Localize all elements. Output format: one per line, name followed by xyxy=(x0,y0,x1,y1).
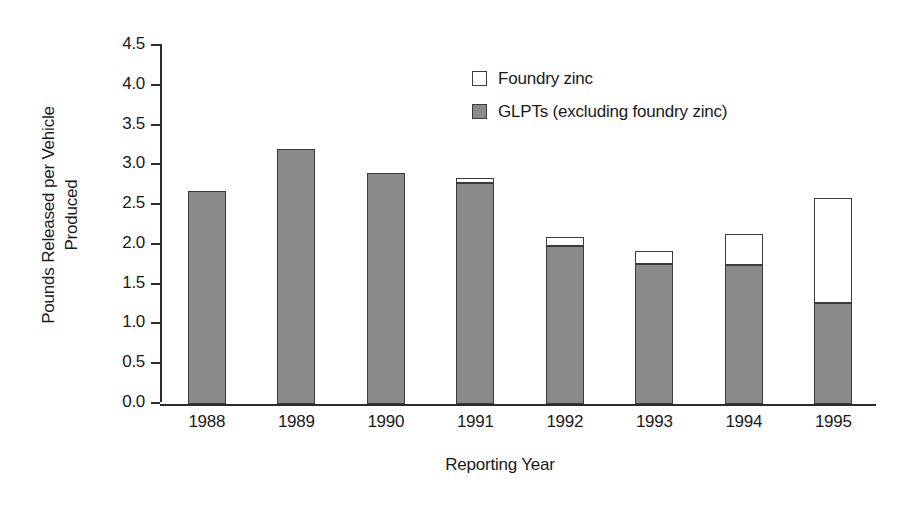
x-axis-tick-label: 1991 xyxy=(431,412,521,432)
chart-figure: Produced Pounds Released per Vehicle 0.0… xyxy=(0,0,912,510)
y-axis-tick-label: 0.0 xyxy=(99,392,145,412)
y-axis-tick-label: 2.5 xyxy=(99,193,145,213)
bar-segment-glpts xyxy=(635,264,673,404)
y-axis-title-line-2: Produced xyxy=(60,179,83,250)
x-axis-tick-label: 1990 xyxy=(341,412,431,432)
bar-segment-foundry-zinc xyxy=(546,237,584,247)
y-axis-tick-label: 2.0 xyxy=(99,233,145,253)
x-axis-tick-label: 1994 xyxy=(699,412,789,432)
bar-segment-glpts xyxy=(277,149,315,404)
bar-group xyxy=(367,173,405,404)
y-axis-tick-label: 3.5 xyxy=(99,114,145,134)
bar-group xyxy=(635,251,673,404)
x-axis-line xyxy=(160,404,876,406)
y-axis-tick: 2.5 xyxy=(151,203,160,205)
y-axis-tick: 1.5 xyxy=(151,283,160,285)
bar-segment-glpts xyxy=(814,303,852,404)
legend-swatch-glpts xyxy=(472,104,487,119)
y-axis-tick-label: 1.0 xyxy=(99,312,145,332)
y-axis-tick: 3.5 xyxy=(151,124,160,126)
bar-segment-glpts xyxy=(367,173,405,404)
legend-label-glpts: GLPTs (excluding foundry zinc) xyxy=(498,102,727,122)
y-axis-tick-label: 1.5 xyxy=(99,273,145,293)
bar-segment-foundry-zinc xyxy=(635,251,673,264)
x-axis-tick-label: 1989 xyxy=(252,412,342,432)
bar-segment-foundry-zinc xyxy=(456,178,494,183)
bar-segment-foundry-zinc xyxy=(814,198,852,303)
y-axis-tick: 2.0 xyxy=(151,243,160,245)
x-axis-tick-label: 1993 xyxy=(610,412,700,432)
legend-label-foundry-zinc: Foundry zinc xyxy=(498,69,593,89)
y-axis-tick: 4.5 xyxy=(151,44,160,46)
y-axis-line xyxy=(160,44,162,402)
y-axis-tick: 4.0 xyxy=(151,84,160,86)
y-axis-tick: 0.0 xyxy=(151,402,160,404)
x-axis-title: Reporting Year xyxy=(120,455,880,475)
x-axis-tick-label: 1995 xyxy=(789,412,879,432)
y-axis-tick: 3.0 xyxy=(151,163,160,165)
y-axis-tick-label: 0.5 xyxy=(99,352,145,372)
bar-group xyxy=(456,178,494,404)
y-axis-tick-label: 4.0 xyxy=(99,74,145,94)
y-axis-tick-label: 4.5 xyxy=(99,34,145,54)
y-axis-tick: 1.0 xyxy=(151,322,160,324)
y-axis-tick-label: 3.0 xyxy=(99,153,145,173)
y-axis-title-line-1: Pounds Released per Vehicle xyxy=(37,106,60,324)
bar-segment-glpts xyxy=(725,265,763,404)
bar-group xyxy=(546,237,584,404)
bar-group xyxy=(725,234,763,404)
bar-group xyxy=(188,191,226,404)
bar-segment-glpts xyxy=(546,246,584,404)
bar-group xyxy=(814,198,852,404)
y-axis-tick: 0.5 xyxy=(151,362,160,364)
bar-segment-foundry-zinc xyxy=(725,234,763,265)
x-axis-tick-label: 1988 xyxy=(162,412,252,432)
bar-segment-glpts xyxy=(456,183,494,404)
legend-item-glpts: GLPTs (excluding foundry zinc) xyxy=(472,95,727,128)
bar-group xyxy=(277,149,315,404)
x-axis-tick-label: 1992 xyxy=(520,412,610,432)
bar-segment-glpts xyxy=(188,191,226,404)
legend-swatch-foundry-zinc xyxy=(472,71,487,86)
chart-legend: Foundry zinc GLPTs (excluding foundry zi… xyxy=(472,62,727,128)
legend-item-foundry-zinc: Foundry zinc xyxy=(472,62,727,95)
